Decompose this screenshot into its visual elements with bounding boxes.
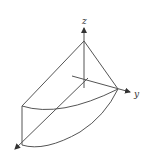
y-axis-label: y — [133, 89, 140, 99]
edge-apex-to-right — [84, 41, 118, 89]
y-axis — [72, 76, 130, 92]
solid-diagram: z y — [0, 0, 155, 156]
upper-curve — [22, 89, 118, 110]
z-axis-label: z — [81, 16, 87, 26]
diagram-canvas: z y — [0, 0, 155, 156]
edge-apex-to-left — [22, 41, 84, 106]
lower-curve — [22, 89, 118, 147]
x-axis — [15, 78, 88, 149]
